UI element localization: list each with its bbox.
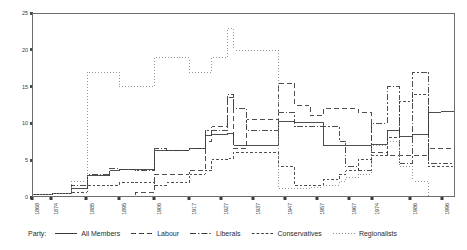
legend-title: Party: xyxy=(28,230,46,237)
x-tick-label: 1906 xyxy=(156,203,162,215)
legend-line-swatch xyxy=(333,230,355,237)
x-tick-label: 1967 xyxy=(351,203,357,215)
x-tick-mark xyxy=(188,197,191,200)
legend-line-swatch xyxy=(131,230,153,237)
legend-line-swatch xyxy=(252,230,274,237)
legend-label: All Members xyxy=(81,230,120,237)
x-tick-label: 1937 xyxy=(255,203,261,215)
plot-lines xyxy=(33,14,454,196)
x-tick-label: 1917 xyxy=(191,203,197,215)
legend-label: Liberals xyxy=(216,230,241,237)
x-tick-label: 1974 xyxy=(374,203,380,215)
x-tick-mark xyxy=(31,197,34,200)
series-line xyxy=(33,83,454,196)
legend-item[interactable]: Labour xyxy=(131,230,179,237)
x-tick-label: 1895 xyxy=(121,203,127,215)
x-tick-label: 1927 xyxy=(223,203,229,215)
x-tick-mark xyxy=(316,197,319,200)
legend-label: Labour xyxy=(157,230,179,237)
series-line xyxy=(33,29,454,196)
legend-label: Conservatives xyxy=(278,230,322,237)
x-tick-label: 1885 xyxy=(89,203,95,215)
x-tick-mark xyxy=(348,197,351,200)
x-tick-mark xyxy=(85,197,88,200)
y-tick-label: 5 xyxy=(25,157,28,163)
x-tick-label: 1996 xyxy=(444,203,450,215)
chart-figure: 0510152025 18681874188518951906191719271… xyxy=(0,0,467,250)
x-tick-mark xyxy=(50,197,53,200)
y-tick-label: 15 xyxy=(22,84,28,90)
plot-area xyxy=(32,13,455,197)
series-line xyxy=(33,72,454,194)
legend-line-swatch xyxy=(55,230,77,237)
x-tick-mark xyxy=(117,197,120,200)
x-tick-mark xyxy=(220,197,223,200)
legend-line-swatch xyxy=(190,230,212,237)
legend-item[interactable]: Liberals xyxy=(190,230,241,237)
y-tick-label: 10 xyxy=(22,120,28,126)
x-tick-mark xyxy=(409,197,412,200)
series-line xyxy=(33,112,454,195)
y-tick-label: 20 xyxy=(22,47,28,53)
x-tick-label: 1874 xyxy=(53,203,59,215)
x-tick-mark xyxy=(152,197,155,200)
series-line xyxy=(33,94,454,194)
chart-legend: Party: All MembersLabourLiberalsConserva… xyxy=(28,225,448,241)
x-tick-label: 1868 xyxy=(34,203,40,215)
x-tick-mark xyxy=(252,197,255,200)
x-tick-mark xyxy=(284,197,287,200)
x-tick-mark xyxy=(370,197,373,200)
x-tick-mark xyxy=(441,197,444,200)
x-tick-label: 1957 xyxy=(319,203,325,215)
legend-item[interactable]: All Members xyxy=(55,230,120,237)
x-tick-label: 1986 xyxy=(412,203,418,215)
legend-item[interactable]: Regionalists xyxy=(333,230,397,237)
legend-label: Regionalists xyxy=(359,230,397,237)
x-tick-label: 1947 xyxy=(287,203,293,215)
legend-item[interactable]: Conservatives xyxy=(252,230,322,237)
y-tick-label: 25 xyxy=(22,10,28,16)
